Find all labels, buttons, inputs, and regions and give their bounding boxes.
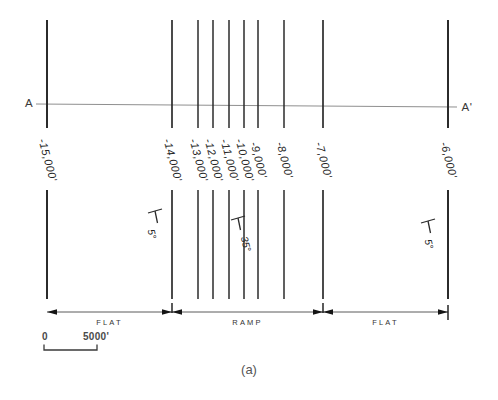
segment-label: RAMP [232,317,262,326]
dip-symbol-stem [238,218,241,230]
scale-bar-distance-label: 5000' [83,331,109,342]
contour-map-figure: A A' 0 5000' (a) -15,000'-14,000'-13,000… [0,0,498,400]
dimension-arrowhead [172,309,182,315]
dimension-arrowhead [162,309,172,315]
section-line-a-aprime [36,104,457,107]
section-endpoint-label-a-prime: A' [462,101,473,113]
dimension-arrowhead [313,309,323,315]
dimension-arrowhead [438,309,448,315]
dimension-arrowhead [323,309,333,315]
segment-label: FLAT [96,317,123,326]
figure-caption: (a) [241,362,257,377]
dip-symbol-stem [428,221,431,233]
scale-bar [44,345,97,351]
dimension-arrowhead [47,309,57,315]
section-endpoint-label-a: A [25,97,33,109]
scale-bar-zero-label: 0 [42,331,48,342]
dip-symbols-group [148,209,435,233]
segment-label: FLAT [372,317,399,326]
figure-canvas [0,0,498,400]
dip-symbol-stem [155,211,158,223]
